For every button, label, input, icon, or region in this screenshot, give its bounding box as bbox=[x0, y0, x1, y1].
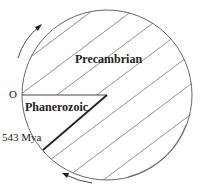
geologic-time-clock-diagram: O Precambrian Phanerozoic 543 Mya bbox=[0, 0, 202, 190]
arrowhead-bottom-icon bbox=[62, 173, 69, 178]
origin-label: O bbox=[9, 88, 17, 100]
arrow-bottom bbox=[66, 175, 92, 183]
clock-graphic bbox=[0, 0, 202, 190]
phanerozoic-label: Phanerozoic bbox=[25, 100, 88, 115]
arrow-top-left bbox=[18, 26, 40, 58]
precambrian-label: Precambrian bbox=[75, 52, 142, 67]
inner-spiral-arc bbox=[128, 125, 186, 177]
boundary-label: 543 Mya bbox=[2, 131, 41, 143]
arrowhead-top-icon bbox=[35, 24, 42, 31]
